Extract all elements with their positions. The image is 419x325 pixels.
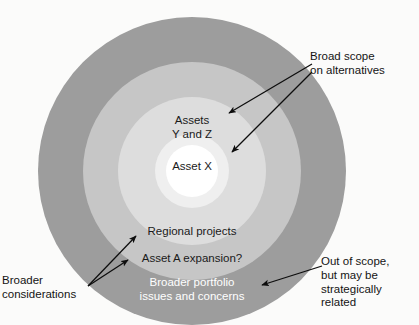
diagram-canvas: Assets Y and Z Asset X Regional projects… xyxy=(0,0,419,325)
ring-label-asset-x: Asset X xyxy=(150,160,234,174)
ring-label-regional-projects: Regional projects xyxy=(118,225,266,239)
ring-label-broader-portfolio: Broader portfolio issues and concerns xyxy=(110,276,274,303)
callout-out-of-scope: Out of scope, but may be strategically r… xyxy=(321,255,417,310)
ring-label-assets-y-and-z: Assets Y and Z xyxy=(150,114,234,141)
callout-broader-considerations: Broader considerations xyxy=(2,274,106,302)
ring-label-asset-a-expansion: Asset A expansion? xyxy=(114,252,270,266)
callout-broad-scope-on-alternatives: Broad scope on alternatives xyxy=(310,50,418,78)
